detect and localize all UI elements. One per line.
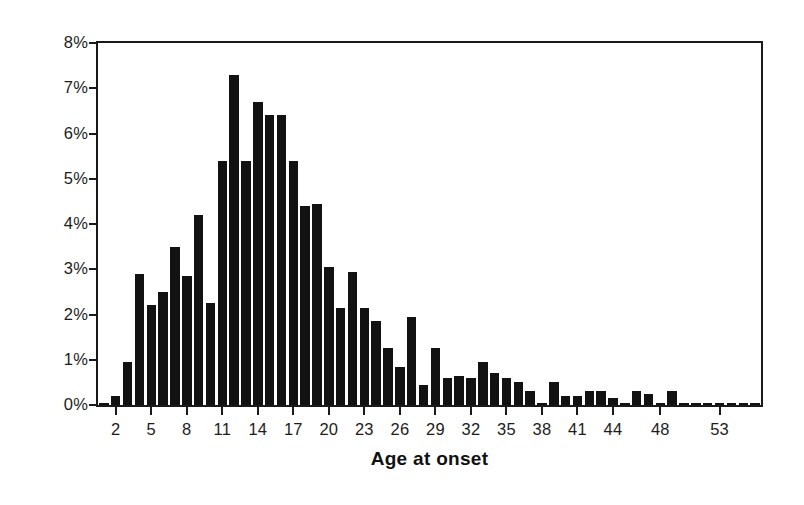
histogram-bar	[277, 115, 286, 405]
x-axis-tick-label: 38	[522, 419, 562, 439]
histogram-bar	[703, 403, 712, 405]
y-axis-tick-label: 5%	[34, 170, 88, 187]
x-axis-tick-label: 20	[309, 419, 349, 439]
histogram-bar	[147, 305, 156, 405]
histogram-bar	[170, 247, 179, 405]
histogram-bar	[265, 115, 274, 405]
histogram-bar	[431, 348, 440, 405]
histogram-bar	[667, 391, 676, 405]
x-axis-tick	[505, 407, 507, 415]
x-axis-tick-label: 35	[486, 419, 526, 439]
histogram-bar	[111, 396, 120, 405]
x-axis-tick	[257, 407, 259, 415]
y-axis-tick-label: 2%	[34, 306, 88, 323]
histogram-bar	[679, 403, 688, 405]
y-axis-tick	[89, 223, 97, 225]
x-axis-tick	[115, 407, 117, 415]
histogram-bar	[218, 161, 227, 405]
x-axis-tick-label: 44	[593, 419, 633, 439]
histogram-bar	[407, 317, 416, 405]
y-axis-tick-labels: 8%7%6%5%4%3%2%1%0%	[34, 0, 88, 505]
histogram-bar	[395, 367, 404, 405]
y-axis-tick	[89, 42, 97, 44]
histogram-bar	[466, 378, 475, 405]
x-axis-title: Age at onset	[96, 448, 763, 470]
x-axis-tick-label: 29	[415, 419, 455, 439]
histogram-bar	[158, 292, 167, 405]
histogram-bar	[585, 391, 594, 405]
y-axis-tick	[89, 133, 97, 135]
histogram-bar	[525, 391, 534, 405]
histogram-bar	[739, 403, 748, 405]
histogram-bar	[300, 206, 309, 405]
histogram-bar	[537, 403, 546, 405]
histogram-bar	[656, 403, 665, 405]
histogram-bar	[253, 102, 262, 405]
histogram-bar	[383, 348, 392, 405]
x-axis-tick	[292, 407, 294, 415]
x-axis-tick-label: 2	[96, 419, 136, 439]
histogram-bar	[715, 403, 724, 405]
histogram-bar	[443, 378, 452, 405]
histogram-bar	[632, 391, 641, 405]
histogram-bar	[324, 267, 333, 405]
histogram-bar	[620, 403, 629, 405]
histogram-bar	[454, 376, 463, 405]
x-axis-tick-label: 32	[451, 419, 491, 439]
histogram-bar	[573, 396, 582, 405]
x-axis-tick	[221, 407, 223, 415]
histogram-bar	[289, 161, 298, 405]
x-axis-tick	[328, 407, 330, 415]
y-axis-tick-label: 8%	[34, 34, 88, 51]
chart-figure: 8%7%6%5%4%3%2%1%0% 258111417202326293235…	[0, 0, 804, 505]
histogram-bar	[123, 362, 132, 405]
y-axis-tick-label: 6%	[34, 125, 88, 142]
y-axis-tick	[89, 359, 97, 361]
x-axis-tick-label: 14	[238, 419, 278, 439]
x-axis-tick	[719, 407, 721, 415]
x-axis-tick	[576, 407, 578, 415]
x-axis-tick-label: 8	[167, 419, 207, 439]
y-axis-tick-label: 1%	[34, 351, 88, 368]
histogram-bar	[206, 303, 215, 405]
y-axis-tick	[89, 314, 97, 316]
histogram-bar	[691, 403, 700, 405]
histogram-bar	[490, 373, 499, 405]
histogram-bar	[419, 385, 428, 405]
x-axis-tick	[434, 407, 436, 415]
histogram-bar	[514, 382, 523, 405]
histogram-bar	[194, 215, 203, 405]
histogram-bar	[241, 161, 250, 405]
x-axis-tick-label: 17	[273, 419, 313, 439]
histogram-bar	[727, 403, 736, 405]
y-axis-tick-label: 7%	[34, 79, 88, 96]
histogram-bars	[98, 43, 761, 405]
x-axis-tick-label: 11	[202, 419, 242, 439]
y-axis-tick	[89, 268, 97, 270]
x-axis-tick	[399, 407, 401, 415]
histogram-bar	[348, 272, 357, 405]
x-axis-tick-label: 26	[380, 419, 420, 439]
y-axis-tick	[89, 87, 97, 89]
histogram-bar	[608, 398, 617, 405]
x-axis-tick	[659, 407, 661, 415]
x-axis-tick-label: 53	[700, 419, 740, 439]
histogram-bar	[502, 378, 511, 405]
x-axis-tick	[470, 407, 472, 415]
x-axis-tick	[186, 407, 188, 415]
y-axis-tick-label: 3%	[34, 260, 88, 277]
y-axis-tick-label: 0%	[34, 396, 88, 413]
x-axis-tick	[612, 407, 614, 415]
y-axis-tick	[89, 404, 97, 406]
histogram-bar	[360, 308, 369, 405]
histogram-bar	[549, 382, 558, 405]
histogram-bar	[99, 403, 108, 405]
histogram-bar	[371, 321, 380, 405]
x-axis-tick	[541, 407, 543, 415]
x-axis-tick-label: 23	[344, 419, 384, 439]
x-axis-tick-label: 41	[557, 419, 597, 439]
histogram-bar	[596, 391, 605, 405]
x-axis-tick-labels: 2581114172023262932353841444853	[98, 419, 761, 445]
histogram-bar	[229, 75, 238, 405]
histogram-bar	[750, 403, 759, 405]
